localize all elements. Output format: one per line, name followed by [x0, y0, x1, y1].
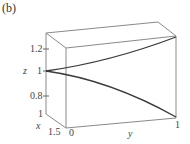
z-axis-label: z: [22, 65, 27, 76]
3d-plot: 1.2 1 0.8 z 1 x 1.5 0 y 1: [0, 0, 190, 144]
z-tick-label-1: 1: [37, 65, 42, 76]
z-tick-label-0.8: 0.8: [30, 90, 43, 101]
y-axis-line: [66, 118, 176, 128]
box-edge-top-back: [46, 22, 158, 33]
box-edge-top-right: [158, 22, 176, 36]
box-edge-top-left: [46, 33, 66, 48]
x-axis-label: x: [35, 120, 41, 131]
x-tick-label-1: 1: [38, 108, 43, 119]
y-tick-label-1: 1: [175, 119, 180, 130]
y-tick-label-0: 0: [69, 127, 74, 138]
z-tick-label-1.2: 1.2: [30, 43, 43, 54]
y-axis-label: y: [127, 128, 133, 139]
x-tick-label-1.5: 1.5: [48, 126, 61, 137]
box-edge-top-front: [66, 36, 176, 48]
